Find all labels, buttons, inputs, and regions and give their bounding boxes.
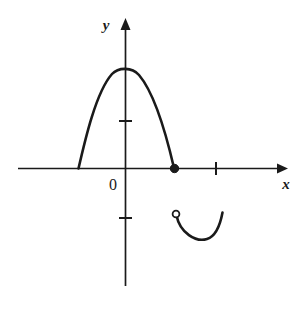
origin-label: 0 bbox=[109, 176, 117, 193]
lower-arc-curve bbox=[177, 213, 223, 240]
x-axis-label: x bbox=[281, 176, 290, 192]
y-axis-label: y bbox=[101, 17, 110, 33]
graph-canvas: y x 0 bbox=[0, 0, 301, 316]
math-figure: y x 0 bbox=[0, 0, 301, 316]
open-point-marker bbox=[173, 211, 180, 218]
closed-point-marker bbox=[170, 164, 178, 172]
y-axis-arrowhead bbox=[121, 18, 131, 30]
x-axis-arrowhead bbox=[277, 164, 288, 174]
